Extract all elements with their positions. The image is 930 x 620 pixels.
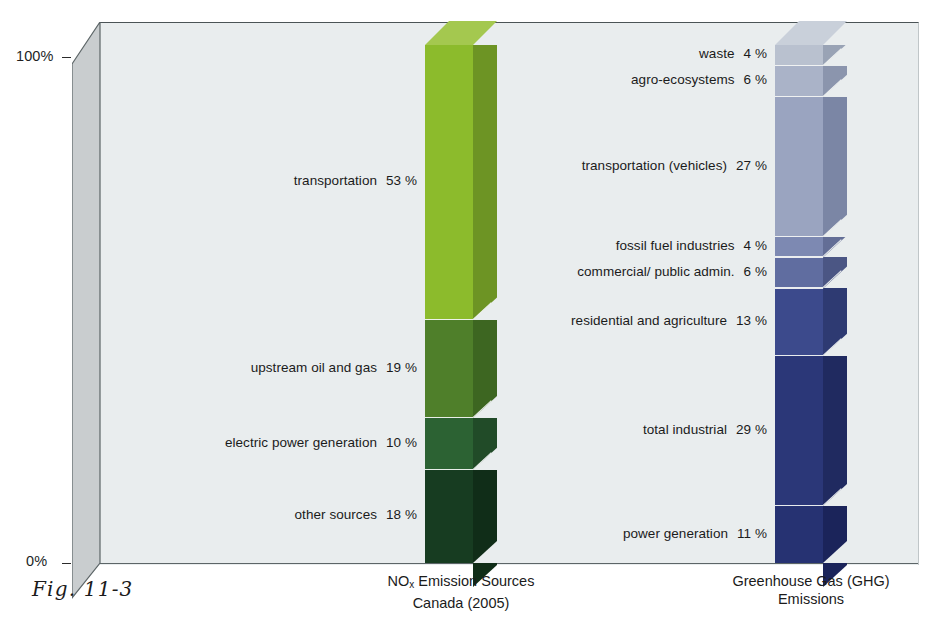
bar-segment <box>775 237 847 258</box>
segment-label: power generation11 % <box>0 526 767 541</box>
bar-caption-nox: NOx Emission Sources Canada (2005) <box>311 572 611 612</box>
plot-floor-line <box>100 563 918 564</box>
segment-label-value: 4 % <box>744 238 767 253</box>
segment-divider <box>775 505 823 506</box>
segment-label-value: 29 % <box>736 422 767 437</box>
segment-label-text: residential and agriculture <box>571 313 727 328</box>
segment-label: total industrial29 % <box>0 422 767 437</box>
segment-label: waste4 % <box>0 46 767 61</box>
segment-label: upstream oil and gas19 % <box>0 360 417 375</box>
stacked-bar-nox <box>425 45 497 563</box>
segment-label-value: 10 % <box>386 435 417 450</box>
segment-divider <box>425 469 473 470</box>
segment-front-face <box>425 470 473 563</box>
bar-segment <box>775 288 847 355</box>
segment-label-text: agro-ecosystems <box>631 72 735 87</box>
segment-divider <box>775 236 823 237</box>
segment-label-text: other sources <box>295 507 377 522</box>
caption-line2-ghg: Emissions <box>778 591 844 607</box>
segment-label-value: 6 % <box>744 72 767 87</box>
segment-label-text: transportation (vehicles) <box>582 158 727 173</box>
segment-label: transportation (vehicles)27 % <box>0 158 767 173</box>
segment-front-face <box>425 320 473 418</box>
segment-label: electric power generation10 % <box>0 435 417 450</box>
caption-line2-nox: Canada (2005) <box>413 595 510 611</box>
bar-segment <box>775 45 847 66</box>
bar-segment <box>775 66 847 97</box>
segment-label: other sources18 % <box>0 507 417 522</box>
stacked-bar-ghg <box>775 45 847 563</box>
segment-side-face <box>823 506 847 563</box>
segment-label: fossil fuel industries4 % <box>0 238 767 253</box>
caption-line1-nox: NOx Emission Sources <box>388 573 535 589</box>
segment-label-text: fossil fuel industries <box>616 238 735 253</box>
segment-front-face <box>775 237 823 258</box>
caption-line1-ghg: Greenhouse Gas (GHG) <box>732 573 889 589</box>
segment-divider <box>775 287 823 288</box>
segment-side-face <box>823 97 847 237</box>
segment-divider <box>425 417 473 418</box>
segment-label-value: 6 % <box>744 264 767 279</box>
segment-front-face <box>775 288 823 355</box>
bar-caption-ghg: Greenhouse Gas (GHG) Emissions <box>661 572 930 608</box>
figure-canvas: 100% 0% NOx Emission Sources Canada (200… <box>0 0 930 620</box>
figure-number: Fig. 11-3 <box>32 577 134 601</box>
segment-side-face <box>823 288 847 355</box>
segment-side-face <box>473 470 497 563</box>
bar-segment <box>425 470 497 563</box>
segment-label-value: 53 % <box>386 173 417 188</box>
segment-label-text: total industrial <box>643 422 727 437</box>
axis-tick-bottom <box>62 563 71 564</box>
segment-label: residential and agriculture13 % <box>0 313 767 328</box>
segment-front-face <box>775 97 823 237</box>
segment-label-text: upstream oil and gas <box>251 360 377 375</box>
segment-label: agro-ecosystems6 % <box>0 72 767 87</box>
segment-label: commercial/ public admin.6 % <box>0 264 767 279</box>
bar-segment <box>775 506 847 563</box>
segment-divider <box>775 65 823 66</box>
segment-side-face <box>473 320 497 418</box>
segment-front-face <box>775 45 823 66</box>
bar-segment <box>775 356 847 506</box>
segment-front-face <box>775 356 823 506</box>
segment-divider <box>775 256 823 257</box>
segment-divider <box>775 96 823 97</box>
segment-label-text: waste <box>699 46 735 61</box>
bar-top-cap <box>425 21 497 45</box>
segment-label-value: 11 % <box>737 526 767 541</box>
segment-label-value: 19 % <box>386 360 417 375</box>
segment-label-value: 27 % <box>736 158 767 173</box>
segment-label-value: 18 % <box>386 507 417 522</box>
segment-front-face <box>775 257 823 288</box>
segment-label-text: electric power generation <box>225 435 377 450</box>
segment-side-face <box>823 356 847 506</box>
bar-top-cap <box>775 21 847 45</box>
segment-divider <box>775 355 823 356</box>
segment-front-face <box>775 506 823 563</box>
segment-label-text: commercial/ public admin. <box>577 264 734 279</box>
segment-label-text: power generation <box>623 526 728 541</box>
segment-front-face <box>775 66 823 97</box>
segment-label-value: 4 % <box>744 46 767 61</box>
bar-segment <box>775 97 847 237</box>
segment-label-text: transportation <box>294 173 377 188</box>
axis-label-bottom: 0% <box>26 553 47 569</box>
segment-label: transportation53 % <box>0 173 417 188</box>
segment-label-value: 13 % <box>736 313 767 328</box>
